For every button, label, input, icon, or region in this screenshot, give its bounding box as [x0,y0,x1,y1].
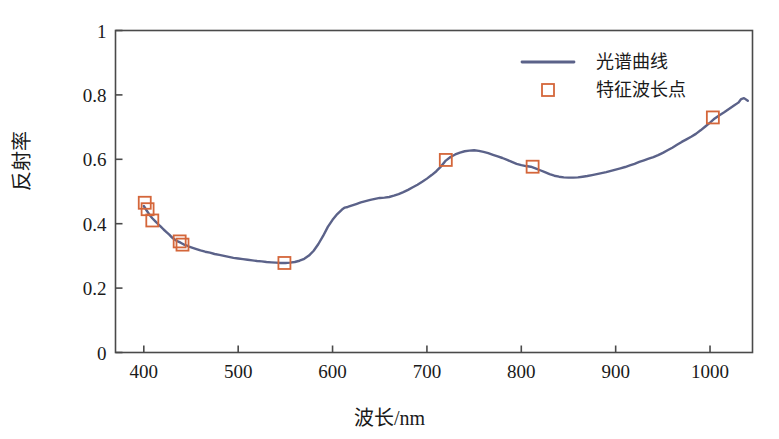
legend-glyphs [522,62,574,96]
y-axis-label: 反射率 [6,131,35,191]
x-tick-label: 1000 [691,362,729,381]
x-tick-label: 800 [507,362,536,381]
legend-item-label: 特征波长点 [596,81,686,99]
y-tick-label: 0.2 [83,279,107,298]
x-tick-label: 600 [318,362,347,381]
y-tick-label: 1 [97,21,107,40]
y-tick-label: 0.4 [83,214,107,233]
y-tick-label: 0.8 [83,85,107,104]
y-axis-ticks [116,31,123,353]
legend-square-glyph [542,84,554,96]
x-tick-label: 900 [601,362,630,381]
feature-wavelength-marker [146,214,158,226]
spectral-curve-line [144,98,748,263]
legend-item-label: 光谱曲线 [596,53,668,71]
x-axis-ticks [144,346,710,353]
y-tick-label: 0.6 [83,150,107,169]
plot-frame [116,31,753,353]
y-tick-label: 0 [97,343,107,362]
x-tick-label: 400 [130,362,159,381]
x-axis-label: 波长/nm [0,402,779,431]
feature-wavelength-markers [139,111,719,269]
x-tick-label: 500 [224,362,253,381]
spectral-reflectance-chart: 400500600700800900100000.20.40.60.81 光谱曲… [0,0,779,439]
x-tick-label: 700 [413,362,442,381]
